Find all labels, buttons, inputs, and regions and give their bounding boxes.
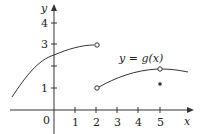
function-label: y = g(x) — [118, 52, 163, 65]
y-axis-label: y — [40, 2, 48, 15]
x-tick-label-3: 3 — [114, 116, 121, 129]
open-point-2-3 — [95, 43, 99, 47]
x-tick-label-1: 1 — [72, 116, 79, 129]
open-point-5-hole — [158, 67, 162, 71]
y-tick-label-1: 1 — [41, 82, 48, 95]
curve-left-branch — [12, 45, 94, 97]
graph-figure: 0 1 2 3 4 5 1 3 4 x y y = g(x) — [0, 0, 203, 134]
x-axis-arrow-icon — [187, 107, 194, 113]
x-tick-label-4: 4 — [135, 116, 142, 129]
y-tick-label-4: 4 — [41, 17, 48, 30]
curve-right-branch — [99, 69, 158, 87]
x-axis-label: x — [184, 115, 191, 128]
origin-label: 0 — [43, 114, 50, 127]
y-axis-arrow-icon — [51, 4, 57, 11]
open-point-2-1 — [95, 86, 99, 90]
filled-point-5 — [158, 82, 162, 86]
x-tick-label-2: 2 — [93, 116, 100, 129]
x-tick-label-5: 5 — [157, 116, 164, 129]
curve-right-branch-tail — [162, 69, 188, 72]
y-tick-label-3: 3 — [41, 38, 48, 51]
